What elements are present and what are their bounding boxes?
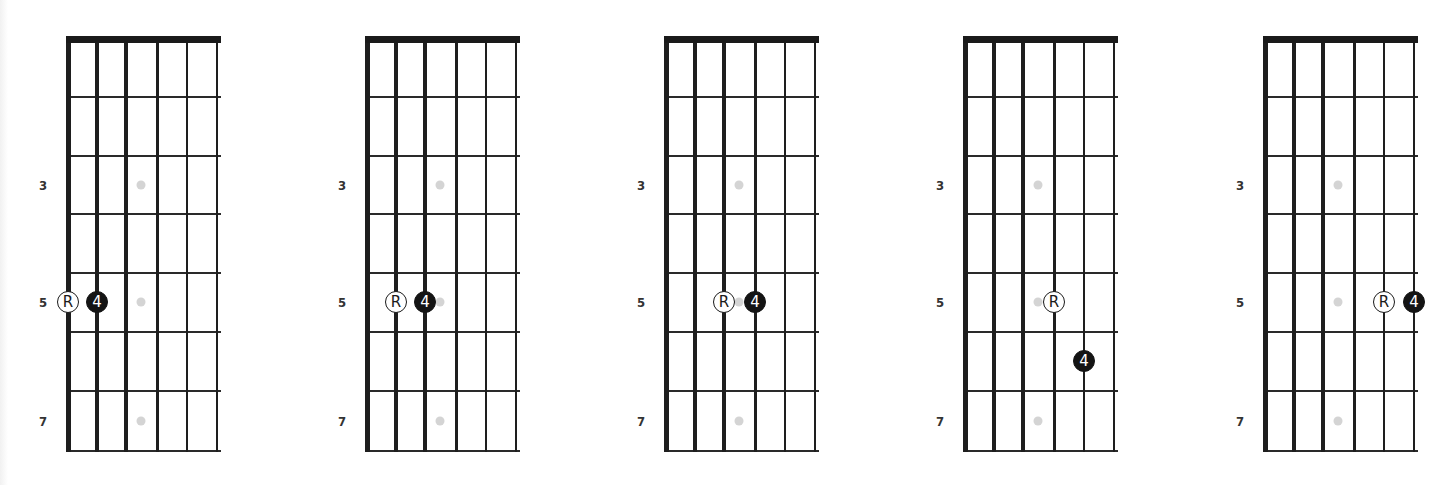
string-line xyxy=(1353,36,1356,452)
fret-number-label: 7 xyxy=(1236,414,1244,429)
fret-line xyxy=(1264,272,1418,274)
string-line xyxy=(1263,36,1268,452)
fret-number-label: 5 xyxy=(1236,295,1244,310)
fret-inlay-dot xyxy=(1334,298,1343,307)
fret-line xyxy=(1264,450,1418,452)
fretboard-diagram: 357R4 xyxy=(0,0,1443,485)
fret-number-label: 3 xyxy=(1236,178,1244,193)
fret-inlay-dot xyxy=(1334,181,1343,190)
interval-note-marker: 4 xyxy=(1403,291,1425,313)
fret-line xyxy=(1264,390,1418,392)
root-note-marker: R xyxy=(1373,291,1395,313)
fret-line xyxy=(1264,155,1418,157)
string-line xyxy=(1321,36,1325,452)
nut xyxy=(1263,36,1418,43)
fret-line xyxy=(1264,331,1418,333)
fret-inlay-dot xyxy=(1334,417,1343,426)
string-line xyxy=(1383,36,1386,452)
fret-line xyxy=(1264,213,1418,215)
fret-line xyxy=(1264,96,1418,98)
string-line xyxy=(1292,36,1296,452)
string-line xyxy=(1413,36,1415,452)
